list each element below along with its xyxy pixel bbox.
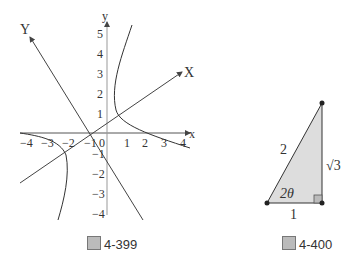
base-label: 1: [290, 207, 297, 222]
svg-text:3: 3: [161, 136, 167, 150]
caption-4-400: 4-400: [282, 236, 332, 252]
svg-text:3: 3: [97, 67, 103, 81]
hypotenuse-label: 2: [280, 142, 287, 157]
figure-4-400: [265, 101, 325, 206]
figure-icon: [87, 236, 101, 250]
angle-label: 2θ: [280, 186, 294, 201]
diagram-canvas: Y X y x −4 −3 −2 −1 0 1 2 3 4 5 4 3 2 1 …: [0, 0, 360, 260]
figure-4-399: [20, 22, 190, 220]
svg-text:2: 2: [142, 136, 148, 150]
svg-text:4: 4: [180, 136, 186, 150]
svg-text:1: 1: [97, 107, 103, 121]
svg-text:−1: −1: [92, 147, 105, 161]
x-axis-label: x: [189, 127, 195, 141]
hyperbola-branch-right: [114, 25, 190, 148]
svg-text:−3: −3: [41, 136, 54, 150]
svg-text:5: 5: [97, 27, 103, 41]
svg-text:1: 1: [124, 136, 130, 150]
svg-text:−2: −2: [92, 167, 105, 181]
rotated-y-axis: [30, 37, 143, 220]
svg-text:−4: −4: [20, 136, 33, 150]
svg-text:2: 2: [97, 87, 103, 101]
svg-text:−2: −2: [62, 136, 75, 150]
rotated-y-label: Y: [20, 22, 30, 37]
svg-text:4: 4: [97, 47, 103, 61]
y-axis-label: y: [102, 9, 108, 23]
rotated-x-label: X: [184, 65, 194, 80]
svg-text:−4: −4: [92, 207, 105, 221]
right-triangle: [267, 103, 322, 203]
height-label: √3: [326, 158, 341, 173]
figure-icon: [282, 236, 296, 250]
caption-4-399: 4-399: [87, 236, 137, 252]
svg-text:−3: −3: [92, 187, 105, 201]
